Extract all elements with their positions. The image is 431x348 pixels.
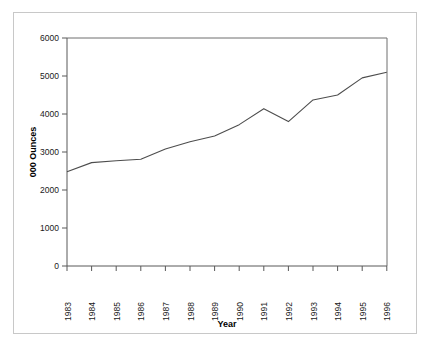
x-tick-label-1986: 1986 [136,302,146,321]
x-tick-label-1983: 1983 [63,302,73,321]
chart-figure: 0 1000 2000 3000 4000 5000 6000 [0,0,431,348]
y-axis-tick-labels: 0 1000 2000 3000 4000 5000 6000 [40,33,59,271]
y-axis-ticks [62,38,67,266]
plot-axes [67,38,387,266]
x-tick-label-1984: 1984 [87,302,97,321]
y-tick-label-2000: 2000 [40,185,59,195]
x-tick-label-1994: 1994 [333,302,343,321]
x-axis-title: Year [217,319,237,329]
x-tick-label-1995: 1995 [358,302,368,321]
y-tick-label-3000: 3000 [40,147,59,157]
y-tick-label-6000: 6000 [40,33,59,43]
data-series-line [67,72,387,172]
y-tick-label-5000: 5000 [40,71,59,81]
x-tick-label-1991: 1991 [259,302,269,321]
x-tick-label-1987: 1987 [161,302,171,321]
x-tick-label-1996: 1996 [382,302,392,321]
y-axis-title: 000 Ounces [28,127,38,178]
x-tick-label-1988: 1988 [186,302,196,321]
y-tick-label-0: 0 [54,261,59,271]
y-tick-label-4000: 4000 [40,109,59,119]
x-tick-label-1993: 1993 [309,302,319,321]
y-tick-label-1000: 1000 [40,223,59,233]
x-tick-label-1985: 1985 [112,302,122,321]
line-chart: 0 1000 2000 3000 4000 5000 6000 [0,0,431,348]
x-tick-label-1992: 1992 [284,302,294,321]
x-axis-ticks [67,266,387,271]
